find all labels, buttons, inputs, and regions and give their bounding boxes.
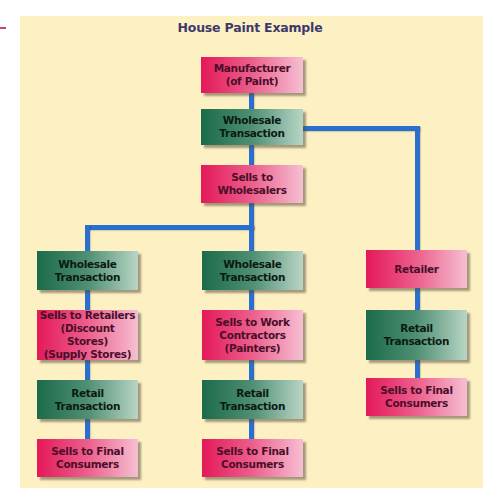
node-right-sells-to-final-consumers: Sells to Final Consumers	[366, 378, 467, 416]
connector-mid-branch-down	[249, 225, 254, 251]
node-sells-to-work-contractors: Sells to Work Contractors (Painters)	[202, 310, 303, 360]
connector-manufacturer-wholesale	[249, 93, 254, 109]
node-sells-to-retailers: Sells to Retailers (Discount Stores) (Su…	[37, 310, 138, 360]
connector-mid-3	[249, 419, 254, 439]
node-left-retail-transaction: Retail Transaction	[37, 380, 138, 419]
node-retailer: Retailer	[366, 250, 467, 288]
connector-mid-1	[249, 290, 254, 310]
node-manufacturer: Manufacturer (of Paint)	[201, 57, 303, 93]
node-mid-retail-transaction: Retail Transaction	[202, 380, 303, 419]
connector-left-1	[85, 290, 90, 310]
connector-right-vertical	[415, 126, 420, 251]
node-right-retail-transaction: Retail Transaction	[366, 310, 467, 360]
connector-branch-horizontal	[85, 225, 254, 230]
node-sells-to-wholesalers: Sells to Wholesalers	[201, 165, 303, 203]
connector-left-branch-down	[85, 225, 90, 251]
node-left-wholesale-transaction: Wholesale Transaction	[37, 251, 138, 290]
node-mid-wholesale-transaction: Wholesale Transaction	[202, 251, 303, 290]
connector-right-2	[415, 360, 420, 380]
node-left-sells-to-final-consumers: Sells to Final Consumers	[37, 439, 138, 477]
node-wholesale-transaction-top: Wholesale Transaction	[201, 109, 303, 145]
connector-left-3	[85, 419, 90, 439]
connector-mid-2	[249, 360, 254, 380]
connector-wholesale-right-horizontal	[302, 126, 420, 131]
connector-left-2	[85, 360, 90, 380]
connector-wholesale-sells-wholesalers	[249, 145, 254, 165]
connector-right-1	[415, 288, 420, 310]
diagram-title: House Paint Example	[0, 20, 500, 35]
node-mid-sells-to-final-consumers: Sells to Final Consumers	[202, 439, 303, 477]
